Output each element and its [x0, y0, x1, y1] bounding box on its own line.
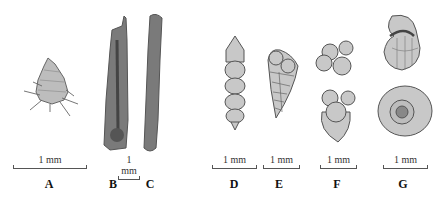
panel-label-e: E — [269, 177, 289, 192]
scale-bar-g: 1 mm — [383, 154, 428, 169]
specimen-f — [316, 41, 355, 142]
specimen-e — [268, 50, 298, 118]
specimen-c — [144, 14, 162, 151]
specimen-b — [104, 16, 128, 150]
specimen-d — [225, 36, 245, 130]
panel-label-d: D — [224, 177, 244, 192]
panel-label-g: G — [393, 177, 413, 192]
panel-label-b: B — [103, 177, 123, 192]
panel-label-f: F — [327, 177, 347, 192]
panel-label-a: A — [39, 177, 59, 192]
scale-bar-a: 1 mm — [13, 154, 87, 169]
specimen-illustrations — [0, 0, 447, 199]
scale-bar-d: 1 mm — [212, 154, 257, 169]
scale-bar-f: 1 mm — [320, 154, 357, 169]
specimen-g — [378, 15, 432, 136]
specimen-a — [24, 58, 78, 116]
scale-bar-e: 1 mm — [263, 154, 300, 169]
panel-label-c: C — [140, 177, 160, 192]
